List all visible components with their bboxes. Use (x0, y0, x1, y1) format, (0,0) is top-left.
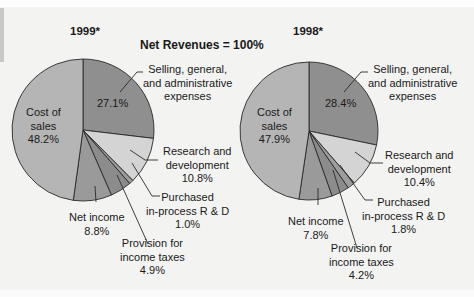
label-rd-1998: Research and development 10.4% (385, 149, 454, 190)
year-label-1999: 1999* (70, 25, 100, 37)
label-line: Selling, general, (143, 63, 232, 77)
label-line: 47.9% (257, 133, 292, 147)
label-line: 10.8% (163, 172, 232, 186)
label-line: in-process R & D (362, 210, 445, 224)
label-line: 7.8% (288, 229, 344, 243)
label-line: development (385, 163, 454, 177)
label-sga-1999: Selling, general, and administrative exp… (143, 63, 232, 104)
label-line: and administrative (368, 77, 457, 91)
label-tax-1999: Provision for income taxes 4.9% (120, 237, 185, 278)
label-line: sales (26, 120, 61, 134)
label-line: income taxes (120, 251, 185, 265)
label-prd-1999: Purchased in-process R & D 1.0% (146, 191, 229, 232)
value-sga-1998: 28.4% (325, 97, 356, 111)
label-rd-1999: Research and development 10.8% (163, 145, 232, 186)
label-line: Purchased (146, 191, 229, 205)
label-line: Cost of (257, 106, 292, 120)
label-cos-1998: Cost of sales 47.9% (257, 106, 292, 147)
label-line: 1.8% (362, 223, 445, 237)
label-line: Purchased (362, 196, 445, 210)
label-cos-1999: Cost of sales 48.2% (26, 106, 61, 147)
label-line: expenses (368, 90, 457, 104)
label-line: in-process R & D (146, 205, 229, 219)
year-label-1998: 1998* (293, 25, 323, 37)
label-line: development (163, 159, 232, 173)
label-line: expenses (143, 90, 232, 104)
pie-charts-figure: 1999* 1998* Net Revenues = 100% Selling,… (0, 0, 474, 297)
label-line: 4.9% (120, 264, 185, 278)
label-line: Selling, general, (368, 63, 457, 77)
label-prd-1998: Purchased in-process R & D 1.8% (362, 196, 445, 237)
label-line: 48.2% (26, 133, 61, 147)
label-ni-1998: Net income 7.8% (288, 215, 344, 242)
label-ni-1999: Net income 8.8% (69, 211, 125, 238)
chart-title: Net Revenues = 100% (140, 38, 264, 52)
label-line: 4.2% (329, 269, 394, 283)
value-sga-1999: 27.1% (97, 97, 128, 111)
label-line: Research and (385, 149, 454, 163)
label-sga-1998: Selling, general, and administrative exp… (368, 63, 457, 104)
label-line: Cost of (26, 106, 61, 120)
label-line: Provision for (329, 242, 394, 256)
label-line: Net income (69, 211, 125, 225)
label-line: Provision for (120, 237, 185, 251)
label-line: 10.4% (385, 176, 454, 190)
label-line: income taxes (329, 256, 394, 270)
label-line: 1.0% (146, 218, 229, 232)
label-line: 8.8% (69, 225, 125, 239)
label-line: Research and (163, 145, 232, 159)
label-tax-1998: Provision for income taxes 4.2% (329, 242, 394, 283)
label-line: and administrative (143, 77, 232, 91)
label-line: sales (257, 120, 292, 134)
label-line: Net income (288, 215, 344, 229)
